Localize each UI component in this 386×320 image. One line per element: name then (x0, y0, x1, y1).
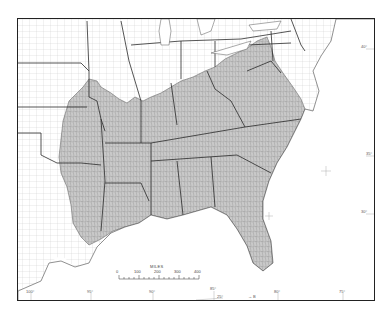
map-svg (18, 19, 375, 301)
longitude-label-80: 80° (274, 289, 280, 294)
inset-arrow-label: → B (248, 294, 256, 299)
longitude-label-95: 95° (87, 289, 93, 294)
map-frame (17, 18, 375, 301)
lake-michigan (159, 19, 171, 45)
longitude-label-100: 100° (26, 289, 34, 294)
scale-tick-400: 400 (194, 269, 201, 274)
longitude-label-75: 75° (339, 289, 345, 294)
scale-tick-200: 200 (154, 269, 161, 274)
latitude-label-40: 40° (361, 44, 367, 49)
latitude-label-30: 30° (361, 209, 367, 214)
scale-tick-0: 0 (116, 269, 118, 274)
scale-tick-300: 300 (174, 269, 181, 274)
latitude-label-35: 35° (366, 151, 372, 156)
longitude-label-85: 85° (210, 286, 216, 291)
longitude-label-90: 90° (149, 289, 155, 294)
scale-tick-100: 100 (134, 269, 141, 274)
latitude-label-25: 25° (217, 294, 223, 299)
